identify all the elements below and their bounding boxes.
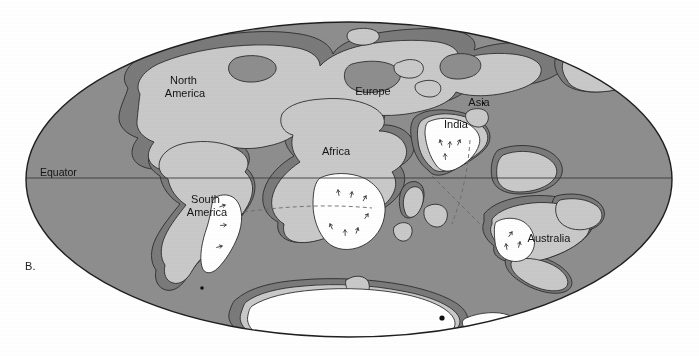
label-australia: Australia [528,232,572,244]
label-africa: Africa [322,145,351,157]
land-inner-sea-arctic [229,56,277,82]
label-north-america: North America [165,74,206,99]
marker-point-1 [200,286,204,290]
land-island-north-1 [394,60,423,79]
panel-letter: B. [25,260,36,272]
equator-label: Equator [40,166,77,178]
label-europe: Europe [355,85,390,97]
land-island-indian-2 [393,223,412,241]
label-asia: Asia [468,96,490,108]
label-south-america: South America [187,193,228,218]
land-island-north-3 [347,28,379,45]
marker-south-pole [439,315,444,320]
world-map: Equator North America Europe Asia India … [0,0,699,356]
land-inner-sea-ne [440,54,481,79]
figure-panel: Equator North America Europe Asia India … [0,0,699,356]
label-india: India [444,118,469,130]
